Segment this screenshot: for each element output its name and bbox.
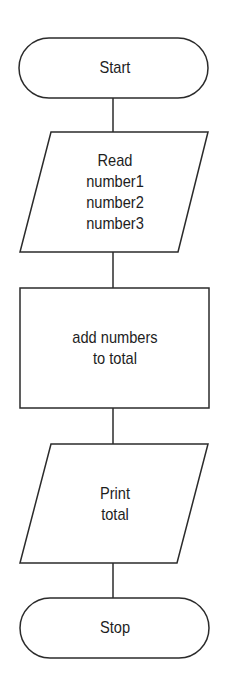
process-label: add numbers to total	[16, 327, 214, 369]
stop-label: Stop	[16, 617, 214, 638]
start-label: Start	[16, 57, 214, 78]
output-label: Print total	[16, 483, 214, 525]
input-label: Read number1 number2 number3	[16, 150, 214, 234]
